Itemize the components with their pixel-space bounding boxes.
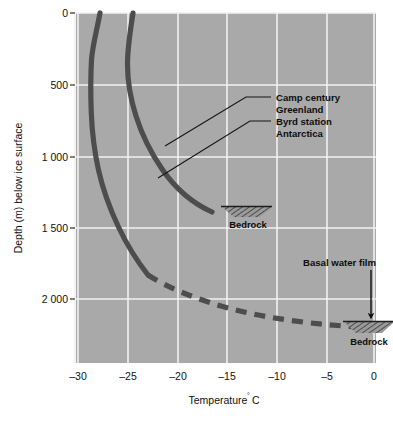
x-axis-degree-symbol: ° xyxy=(247,392,250,399)
x-tick--15: –15 xyxy=(218,370,236,382)
y-tick-500: 500 xyxy=(50,79,68,91)
x-tick--5: –5 xyxy=(321,370,333,382)
byrd-station-line-2: Antarctica xyxy=(276,128,324,139)
x-tick--10: –10 xyxy=(268,370,286,382)
x-tick--20: –20 xyxy=(169,370,187,382)
x-axis-title-text: Temperature xyxy=(189,394,248,406)
byrd-station-line-1: Byrd station xyxy=(276,116,332,127)
plot-background xyxy=(75,13,376,363)
camp-century-line-2: Greenland xyxy=(276,104,324,115)
y-axis-title-text: Depth (m) below ice surface xyxy=(12,122,24,253)
x-tick--25: –25 xyxy=(119,370,137,382)
x-tick--30: –30 xyxy=(69,370,87,382)
y-tick-2000: 2 000 xyxy=(42,293,68,305)
camp-century-line-1: Camp century xyxy=(276,92,341,103)
bedrock-label-camp-century: Bedrock xyxy=(350,336,388,347)
y-tick-1500: 1 500 xyxy=(42,222,68,234)
bedrock-label-byrd: Bedrock xyxy=(229,219,267,230)
x-axis-unit-text: C xyxy=(252,394,260,406)
x-tick-0: 0 xyxy=(371,370,377,382)
basal-water-film-label: Basal water film xyxy=(303,257,376,268)
plot-area: Bedrock Bedrock xyxy=(75,13,393,363)
temperature-depth-profile-chart: Bedrock Bedrock Camp century Greenland B… xyxy=(0,0,393,421)
chart-figure: Bedrock Bedrock Camp century Greenland B… xyxy=(0,0,393,421)
y-tick-1000: 1 000 xyxy=(42,151,68,163)
y-tick-0: 0 xyxy=(62,7,68,19)
